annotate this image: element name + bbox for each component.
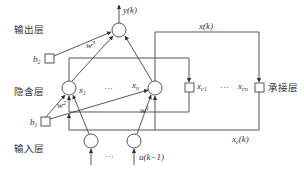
x1-label: x1	[78, 85, 86, 96]
w2-label: w2	[57, 100, 66, 110]
context-layer-label: 承接层	[268, 82, 298, 93]
x1-copy-line-to-xc1	[69, 58, 189, 82]
b2-label: b2	[33, 54, 41, 65]
input-signal-label: u(k−1)	[139, 152, 164, 162]
input1-to-x1-arrow	[73, 95, 89, 134]
input-neuron-1	[84, 134, 98, 148]
xn-to-output-arrow	[125, 36, 152, 81]
elman-network-diagram: 输出层 隐含层 输入层 承接层 y(k) b2 w3 x(k) x1 ··· x…	[0, 0, 304, 176]
xcn-feedback-line-to-xn	[155, 92, 259, 130]
xk-copy-line-to-xcn	[155, 32, 259, 82]
xc1-label: xc1	[196, 81, 207, 92]
b1-bias-square	[41, 117, 50, 126]
context-state-label: xc(k)	[231, 134, 249, 145]
output-layer-label: 输出层	[14, 24, 44, 35]
input-ellipsis: ···	[105, 151, 114, 161]
context-ellipsis: ···	[220, 82, 229, 92]
hidden-neuron-x1	[62, 81, 76, 95]
b1-label: b1	[30, 117, 38, 128]
hidden-neuron-xn	[148, 81, 162, 95]
b2-to-output-arrow	[54, 32, 111, 56]
hidden-ellipsis: ···	[104, 83, 113, 93]
w1-label: w1	[140, 105, 149, 115]
w3-label: w3	[86, 40, 95, 50]
output-signal-label: y(k)	[122, 5, 137, 15]
hidden-state-label: x(k)	[198, 21, 213, 31]
hidden-layer-label: 隐含层	[14, 86, 44, 97]
input-neuron-n	[127, 134, 141, 148]
xn-label: xn	[131, 80, 139, 91]
context-node-xcn	[255, 83, 264, 92]
xc1-feedback-line	[69, 92, 189, 112]
xcn-label: xcn	[237, 81, 248, 92]
output-neuron	[112, 23, 126, 37]
b2-bias-square	[45, 54, 54, 63]
context-node-xc1	[185, 83, 194, 92]
input-layer-label: 输入层	[14, 143, 44, 154]
